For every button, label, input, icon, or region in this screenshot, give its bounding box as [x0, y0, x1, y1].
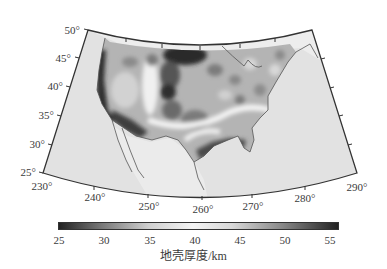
lon-label-280: 280°	[290, 193, 320, 204]
colorbar-tick-30: 30	[94, 234, 114, 246]
lon-label-270: 270°	[238, 201, 268, 212]
colorbar-tick-40: 40	[185, 234, 205, 246]
colorbar-title: 地壳厚度/km	[0, 246, 387, 264]
lon-label-250: 250°	[134, 201, 164, 212]
lat-label-25: 25°	[6, 167, 36, 178]
lon-label-240: 240°	[80, 192, 110, 203]
colorbar-tick-35: 35	[140, 234, 160, 246]
lat-label-45: 45°	[41, 53, 71, 64]
colorbar-tick-45: 45	[230, 234, 250, 246]
lon-label-260: 260°	[188, 204, 218, 215]
colorbar-tick-50: 50	[275, 234, 295, 246]
colorbar-tick-55: 55	[320, 234, 340, 246]
lon-label-230: 230°	[27, 181, 57, 192]
colorbar-tick-25: 25	[49, 234, 69, 246]
lat-label-30: 30°	[15, 139, 45, 150]
colorbar	[58, 222, 339, 230]
lon-label-290: 290°	[342, 182, 372, 193]
lat-label-40: 40°	[33, 81, 63, 92]
lat-label-35: 35°	[24, 110, 54, 121]
lat-label-50: 50°	[50, 25, 80, 36]
